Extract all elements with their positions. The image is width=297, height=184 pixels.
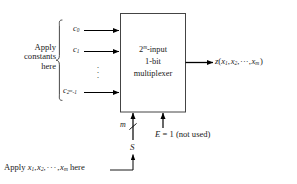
output-paren-close: ) (259, 56, 263, 66)
input-label-c0: c0 (73, 24, 79, 33)
select-signal-label: S (130, 143, 135, 153)
diagram-vector-layer (0, 0, 297, 184)
multiplexer-box-line3: multiplexer (121, 68, 185, 80)
input-label-c1: c1 (73, 45, 79, 54)
enable-equals: = (162, 129, 167, 139)
apply-inputs-dots: , · · · , (44, 162, 60, 172)
output-label: z(x1, x2, ···, xm ) (215, 57, 263, 66)
ellipsis-dot-3: · (95, 75, 101, 80)
input-label-cn-subscript: 2m‑1 (67, 89, 77, 95)
multiplexer-box-line1: 2m-input (121, 44, 185, 56)
apply-constants-label: Apply constants here (6, 43, 56, 71)
input-label-cn: c2m‑1 (63, 86, 77, 95)
input-label-c1-subscript: 1 (77, 48, 80, 54)
input-label-cn-exponent: m (69, 88, 72, 93)
enable-value: 1 (169, 129, 173, 139)
mux-line1-rest: -input (147, 45, 167, 54)
multiplexer-diagram: Apply constants here c0 c1 c2m‑1 · · · 2… (0, 0, 297, 184)
input-ellipsis: · · · (95, 65, 101, 80)
multiplexer-box-label: 2m-input 1-bit multiplexer (121, 44, 185, 80)
output-dots: ··· (240, 56, 249, 66)
enable-note: (not used) (176, 129, 211, 139)
apply-inputs-suffix: here (68, 162, 85, 172)
bus-width-label: m (120, 121, 126, 130)
constants-brace (56, 20, 62, 100)
apply-inputs-prefix: Apply (4, 162, 28, 172)
enable-label: E = 1 (not used) (155, 130, 210, 139)
enable-name: E (155, 129, 160, 139)
apply-constants-line3: here (6, 62, 56, 71)
input-label-c0-subscript: 0 (77, 27, 80, 33)
apply-inputs-label: Apply x1, x2, · · · , xm here (4, 163, 85, 172)
multiplexer-box-line2: 1-bit (121, 56, 185, 68)
